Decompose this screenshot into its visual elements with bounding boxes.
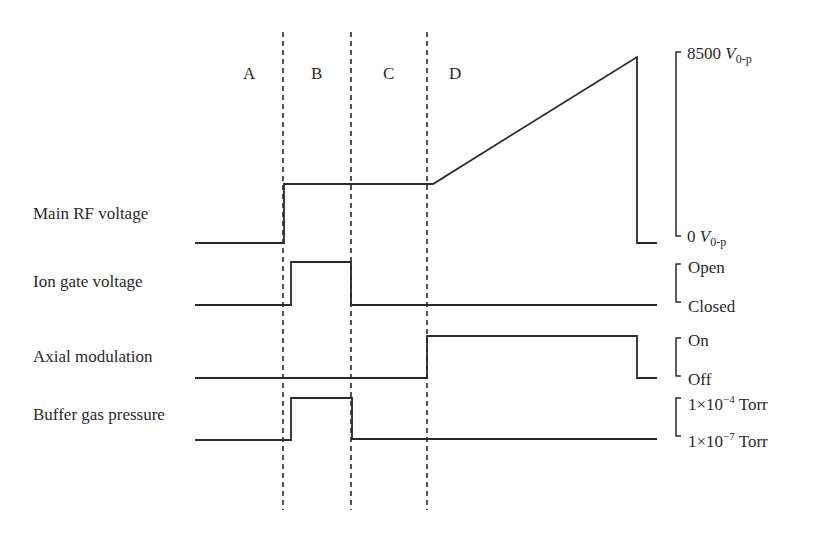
axial-modulation-low-label: Off [688, 371, 711, 388]
main-rf-high-subscript: 0-p [736, 52, 752, 66]
main-rf-low-subscript: 0-p [710, 235, 726, 249]
signal-label-main-rf-voltage: Main RF voltage [33, 205, 148, 222]
buffer-gas-low-exponent: −7 [723, 430, 735, 442]
buffer-gas-high-unit: Torr [735, 395, 768, 414]
buffer-gas-pressure-trace [195, 398, 657, 440]
buffer-gas-high-label: 1×10−4 Torr [688, 394, 768, 413]
phase-label-c: C [383, 65, 394, 82]
signal-label-buffer-gas-pressure: Buffer gas pressure [33, 406, 165, 423]
axial-modulation-high-label: On [688, 332, 709, 349]
ion-gate-low-label: Closed [688, 298, 735, 315]
ion-gate-range-bracket [676, 264, 681, 302]
buffer-gas-range-bracket [676, 398, 681, 436]
buffer-gas-high-exponent: −4 [723, 393, 735, 405]
main-rf-high-symbol: V [725, 44, 735, 63]
main-rf-range-bracket [676, 52, 681, 236]
axial-modulation-range-bracket [676, 338, 681, 376]
phase-label-b: B [311, 65, 322, 82]
ion-gate-high-label: Open [688, 259, 725, 276]
main-rf-low-label: 0 V0-p [687, 228, 726, 248]
buffer-gas-low-base: 1×10 [688, 432, 723, 451]
main-rf-low-value: 0 [687, 227, 696, 246]
phase-label-a: A [243, 65, 255, 82]
buffer-gas-high-base: 1×10 [688, 395, 723, 414]
signal-label-axial-modulation: Axial modulation [33, 348, 152, 365]
buffer-gas-low-unit: Torr [735, 432, 768, 451]
main-rf-high-value: 8500 [687, 44, 721, 63]
ion-gate-voltage-trace [195, 262, 657, 305]
signal-label-ion-gate-voltage: Ion gate voltage [33, 273, 143, 290]
buffer-gas-low-label: 1×10−7 Torr [688, 431, 768, 450]
main-rf-voltage-trace [195, 57, 657, 243]
phase-label-d: D [449, 65, 461, 82]
axial-modulation-trace [195, 336, 657, 378]
main-rf-high-label: 8500 V0-p [687, 45, 752, 65]
main-rf-low-symbol: V [700, 227, 710, 246]
